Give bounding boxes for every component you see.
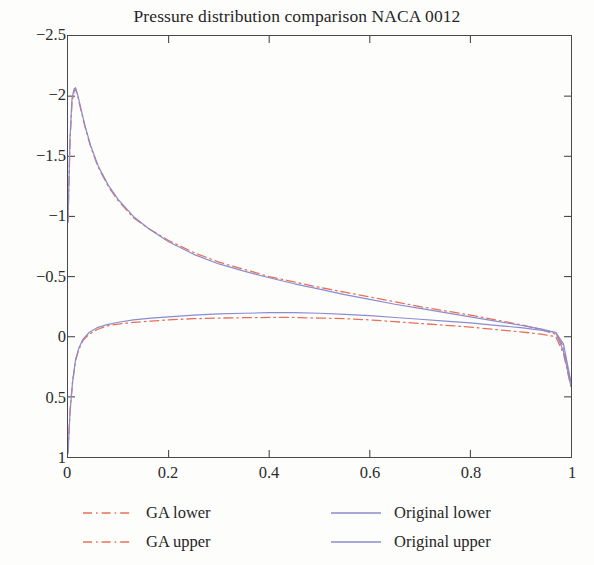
- x-tick-label: 0.4: [259, 463, 280, 483]
- legend-line-sample: [330, 506, 382, 520]
- series-line-original-lower: [68, 313, 571, 454]
- legend-swatch-icon: [82, 506, 134, 520]
- plot-canvas: [68, 36, 571, 457]
- y-tick-label: 0.5: [45, 388, 66, 408]
- legend-label: Original upper: [394, 532, 491, 552]
- series-line-ga-lower: [68, 317, 571, 452]
- y-tick-label: −1.5: [36, 146, 66, 166]
- legend-label: Original lower: [394, 503, 491, 523]
- y-tick-label: −2: [48, 85, 66, 105]
- x-tick-label: 0.6: [360, 463, 381, 483]
- legend-swatch-icon: [330, 535, 382, 549]
- series-line-ga-upper: [68, 89, 571, 385]
- y-tick-label: −2.5: [36, 25, 66, 45]
- legend-line-sample: [82, 506, 134, 520]
- plot-area: [67, 35, 572, 458]
- x-tick-label: 0: [63, 463, 71, 483]
- series-line-original-upper: [68, 88, 571, 383]
- legend-entry[interactable]: GA lower: [82, 498, 211, 527]
- page-title: Pressure distribution comparison NACA 00…: [0, 6, 594, 27]
- legend-swatch-icon: [82, 535, 134, 549]
- legend-entry[interactable]: Original upper: [330, 527, 491, 556]
- legend-swatch-icon: [330, 506, 382, 520]
- legend-entry[interactable]: GA upper: [82, 527, 211, 556]
- y-tick-label: 0: [58, 327, 66, 347]
- legend-entry[interactable]: Original lower: [330, 498, 491, 527]
- legend-label: GA lower: [146, 503, 211, 523]
- legend-label: GA upper: [146, 532, 211, 552]
- legend-column-right: Original lowerOriginal upper: [330, 498, 491, 556]
- x-tick-label: 1: [568, 463, 576, 483]
- legend-column-left: GA lowerGA upper: [82, 498, 211, 556]
- y-tick-label: −0.5: [36, 267, 66, 287]
- x-tick-label: 0.2: [158, 463, 179, 483]
- y-tick-label: −1: [48, 206, 66, 226]
- legend-line-sample: [82, 535, 134, 549]
- figure: Pressure distribution comparison NACA 00…: [0, 0, 594, 565]
- legend-line-sample: [330, 535, 382, 549]
- chart-legend: GA lowerGA upper Original lowerOriginal …: [0, 498, 594, 560]
- x-tick-label: 0.8: [461, 463, 482, 483]
